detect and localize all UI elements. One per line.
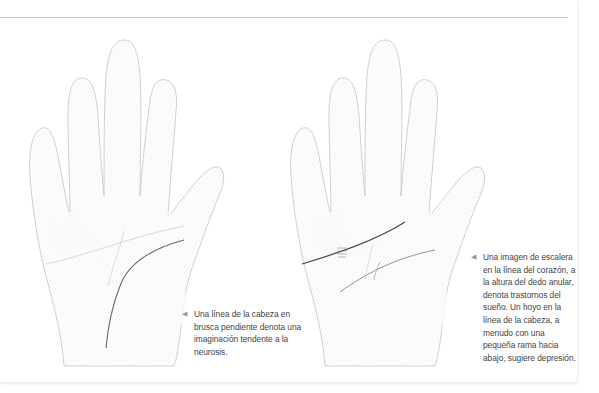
caption-right-text: Una imagen de escalera en la línea del c…	[483, 252, 576, 363]
caption-right: ◀ Una imagen de escalera en la línea del…	[483, 251, 579, 364]
top-rule-divider	[0, 17, 568, 18]
page: ◀ Una línea de la cabeza en brusca pendi…	[0, 0, 577, 383]
bottom-rule-divider	[0, 382, 577, 383]
palm-illustration-right	[285, 36, 495, 368]
caption-pointer-icon: ◀	[182, 308, 187, 321]
hand-drawing-right	[285, 36, 495, 368]
caption-pointer-icon: ◀	[471, 251, 476, 264]
